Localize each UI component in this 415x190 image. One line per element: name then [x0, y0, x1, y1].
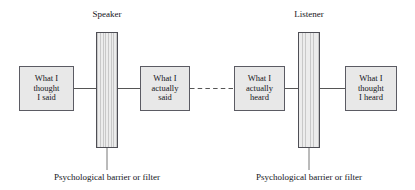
speaker-barrier	[96, 32, 118, 148]
listener-barrier	[298, 32, 320, 148]
caption-listener-barrier: Psychological barrier or filter	[229, 172, 389, 182]
box1-line3: I said	[37, 93, 56, 103]
box4-line3: I heard	[359, 93, 383, 103]
box3-line3: heard	[250, 93, 269, 103]
box-what-i-actually-said: What I actually said	[140, 66, 190, 111]
box2-line3: said	[158, 93, 172, 103]
label-listener: Listener	[274, 9, 344, 19]
caption-speaker-barrier: Psychological barrier or filter	[27, 172, 187, 182]
box-what-i-actually-heard: What I actually heard	[234, 66, 285, 111]
label-speaker: Speaker	[72, 9, 142, 19]
box-what-i-thought-i-said: What I thought I said	[19, 66, 74, 111]
diagram-canvas: Speaker Listener What I thought I said W…	[0, 0, 415, 190]
box-what-i-thought-i-heard: What I thought I heard	[345, 66, 397, 111]
